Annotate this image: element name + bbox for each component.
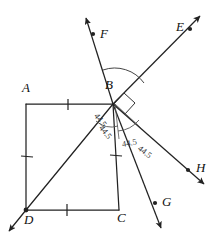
ray-BE — [113, 16, 200, 104]
side-BC — [113, 104, 119, 210]
geometry-figure: A B C D F E G H 44.5 44.5 44.5 44.5 — [0, 0, 220, 232]
dot-F — [91, 32, 95, 36]
label-D: D — [24, 213, 33, 226]
angle-label-lower-left: 44.5 — [121, 137, 137, 148]
dot-H — [186, 168, 190, 172]
tick-DA — [21, 156, 33, 157]
label-G: G — [162, 195, 171, 208]
label-F: F — [100, 27, 108, 40]
label-A: A — [22, 81, 30, 94]
right-angle-mark — [114, 93, 135, 114]
label-C: C — [117, 211, 126, 224]
label-E: E — [176, 20, 184, 33]
dot-E — [188, 27, 192, 31]
label-B: B — [105, 78, 113, 91]
dot-G — [153, 201, 157, 205]
label-H: H — [196, 161, 205, 174]
point-dots — [24, 27, 192, 213]
tick-BC — [110, 155, 122, 156]
diagram-canvas — [0, 0, 220, 232]
